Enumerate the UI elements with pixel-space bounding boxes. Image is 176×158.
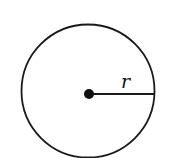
radius-label: r bbox=[121, 70, 132, 92]
center-point bbox=[84, 89, 94, 99]
circle-diagram: r bbox=[0, 0, 176, 158]
